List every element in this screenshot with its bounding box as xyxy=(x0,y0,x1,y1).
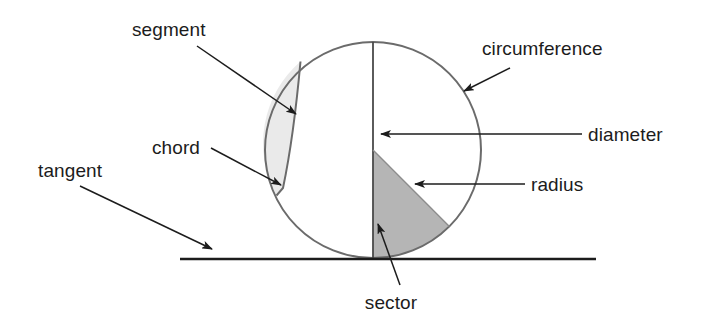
leader-line-circumference xyxy=(464,68,510,91)
leader-line-tangent xyxy=(80,186,212,249)
label-sector: sector xyxy=(365,292,418,313)
circle-parts-diagram: segment chord tangent circumference diam… xyxy=(0,0,703,319)
label-diameter: diameter xyxy=(588,124,663,145)
label-radius: radius xyxy=(531,174,583,195)
label-chord: chord xyxy=(152,137,200,158)
label-tangent: tangent xyxy=(38,160,103,181)
diagram-canvas: segment chord tangent circumference diam… xyxy=(0,0,703,319)
label-segment: segment xyxy=(132,19,206,40)
label-circumference: circumference xyxy=(482,38,603,59)
leader-line-segment xyxy=(197,46,296,114)
